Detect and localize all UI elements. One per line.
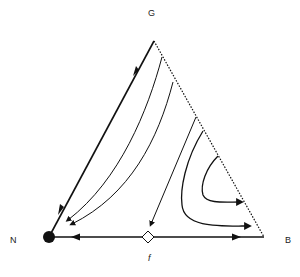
arrowhead-icon [71, 234, 80, 241]
trajectories [68, 57, 248, 226]
trajectory-5 [202, 156, 240, 202]
bottom-label-f: f [148, 253, 151, 263]
vertex-label-b: B [285, 235, 291, 245]
unstable-fixed-point [142, 231, 154, 243]
trajectory-3 [151, 117, 196, 224]
ternary-diagram [0, 0, 300, 277]
edge-g-b [154, 41, 264, 237]
arrowhead-icon [232, 234, 241, 241]
trajectory-1 [68, 57, 162, 220]
vertex-label-n: N [10, 235, 17, 245]
edge-n-g [49, 41, 154, 237]
vertex-label-g: G [148, 8, 155, 18]
stable-fixed-point [43, 231, 55, 243]
edge-n-b [49, 234, 264, 241]
trajectory-4 [182, 131, 248, 226]
